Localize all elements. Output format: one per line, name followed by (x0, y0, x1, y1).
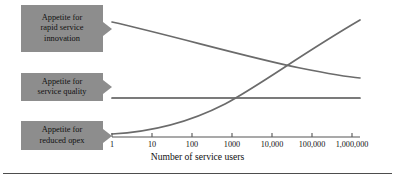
series-line-rapid-service-innovation (112, 22, 360, 78)
x-tick-label-1000000: 1,000,000 (336, 140, 369, 149)
x-tick-label-1000: 1000 (224, 140, 240, 149)
callout-label-reduced-opex: Appetite for reduced opex (24, 125, 100, 146)
figure-bottom-rule (3, 173, 392, 174)
figure-container: 1 10 100 1000 10,000 100,000 1,000,000 N… (0, 0, 395, 180)
x-axis-title: Number of service users (0, 151, 395, 162)
callout-pointer-icon (103, 22, 112, 36)
x-tick-label-100: 100 (186, 140, 198, 149)
callout-label-service-quality: Appetite for service quality (24, 77, 100, 98)
x-tick-label-100000: 100,000 (299, 140, 326, 149)
callout-pointer-icon (103, 80, 112, 94)
series-line-reduced-opex (112, 20, 360, 134)
callout-reduced-opex: Appetite for reduced opex (21, 121, 103, 150)
x-tick-label-10: 10 (148, 140, 156, 149)
x-tick-label-10000: 10,000 (261, 140, 284, 149)
callout-service-quality: Appetite for service quality (21, 73, 103, 101)
callout-pointer-icon (103, 129, 112, 143)
callout-rapid-service-innovation: Appetite for rapid service innovation (21, 5, 103, 52)
callout-label-rapid-service-innovation: Appetite for rapid service innovation (24, 13, 100, 44)
x-axis-ticks (112, 133, 352, 137)
